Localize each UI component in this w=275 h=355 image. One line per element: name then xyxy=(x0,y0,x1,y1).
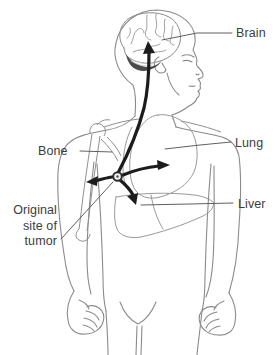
brain-gyri-line xyxy=(163,19,169,41)
tumor-dot xyxy=(116,175,119,178)
leader-brain xyxy=(162,33,232,40)
diagram-labels: Brain Bone Lung Liver Original site of t… xyxy=(13,26,266,248)
left-torso-side-line xyxy=(97,164,106,311)
right-thumb-line xyxy=(214,301,224,310)
label-original-site-line1: Original xyxy=(13,203,57,217)
leader-lung xyxy=(165,142,231,149)
metastasis-diagram: Brain Bone Lung Liver Original site of t… xyxy=(0,0,275,355)
leader-liver xyxy=(141,203,233,205)
brain-gyri-line xyxy=(155,14,161,37)
right-hand-finger-line xyxy=(209,326,220,332)
liver-outline xyxy=(115,193,214,237)
left-shoulder-arm-outline xyxy=(58,116,135,291)
eye-line xyxy=(183,60,192,62)
right-clavicle-line xyxy=(181,121,221,132)
brain-gyri-line xyxy=(145,15,151,40)
label-lung: Lung xyxy=(235,136,263,150)
arrowhead-lung xyxy=(157,160,170,170)
label-brain: Brain xyxy=(236,26,266,40)
brain-gyri-line xyxy=(131,29,144,44)
arrow-to-brain xyxy=(118,53,149,173)
eyebrow-line xyxy=(182,55,194,57)
scapula-line xyxy=(107,137,121,156)
nostril-line xyxy=(196,74,199,75)
scapula-line xyxy=(101,139,118,161)
left-thigh-outline xyxy=(106,311,108,355)
groin-curve xyxy=(120,302,156,324)
brain-gyri-line xyxy=(127,28,130,38)
leader-bone xyxy=(80,151,112,152)
leg-center-line-right xyxy=(141,326,142,355)
jaw-cheek-line xyxy=(167,73,179,95)
label-bone: Bone xyxy=(38,144,68,158)
tumor-dot-group xyxy=(116,175,119,178)
label-original-site-line2: site of xyxy=(23,219,57,233)
right-torso-side-line xyxy=(202,164,211,311)
liver-lobe-line xyxy=(151,195,163,229)
leg-center-line-left xyxy=(136,326,137,355)
diagram-canvas: Brain Bone Lung Liver Original site of t… xyxy=(0,0,275,355)
left-hand-outline xyxy=(67,291,103,334)
metastasis-arrows xyxy=(95,53,159,195)
arrowhead-brain xyxy=(143,41,155,54)
arrow-to-lung xyxy=(123,166,159,175)
brain-gyri-line xyxy=(170,26,174,45)
organ-outlines xyxy=(115,115,214,238)
left-hand-finger-line xyxy=(83,325,94,331)
left-thumb-line xyxy=(79,300,89,309)
right-hand-outline xyxy=(199,293,235,335)
label-original-site-line3: tumor xyxy=(25,234,57,248)
label-liver: Liver xyxy=(238,197,266,211)
head-profile-outline xyxy=(115,10,203,127)
right-inner-arm-line xyxy=(206,166,214,297)
arrow-to-liver xyxy=(120,180,133,195)
